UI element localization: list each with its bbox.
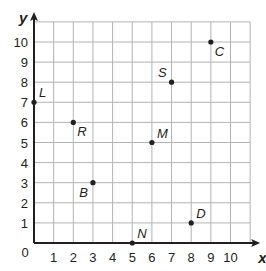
y-tick-label: 8 [21, 75, 28, 90]
point-label: M [157, 126, 168, 141]
x-tick-label: 1 [50, 250, 57, 265]
y-tick-label: 7 [21, 95, 28, 110]
y-tick-label: 5 [21, 136, 28, 151]
point-dot-icon [130, 240, 135, 245]
y-tick-label: 6 [21, 115, 28, 130]
point-dot-icon [90, 180, 95, 185]
y-tick-label: 3 [21, 176, 28, 191]
point-label: N [137, 226, 147, 241]
x-tick-label: 3 [89, 250, 96, 265]
y-tick-label: 9 [21, 55, 28, 70]
y-axis-label: y [18, 9, 28, 26]
point-label: R [77, 124, 86, 139]
x-tick-label: 4 [109, 250, 116, 265]
point-dot-icon [189, 220, 194, 225]
point-dot-icon [31, 100, 36, 105]
y-tick-label: 1 [21, 216, 28, 231]
point-dot-icon [169, 80, 174, 85]
x-tick-label: 5 [129, 250, 136, 265]
point-label: S [158, 65, 167, 80]
x-tick-label: 6 [148, 250, 155, 265]
x-tick-label: 2 [70, 250, 77, 265]
x-tick-label: 8 [188, 250, 195, 265]
y-tick-label: 10 [14, 35, 28, 50]
point-label: B [79, 185, 88, 200]
point-label: D [196, 206, 205, 221]
y-tick-label: 2 [21, 196, 28, 211]
x-axis-label: x [257, 249, 266, 266]
point-dot-icon [71, 120, 76, 125]
point-label: L [39, 85, 46, 100]
point-dot-icon [208, 39, 213, 44]
x-tick-label: 9 [207, 250, 214, 265]
point-dot-icon [149, 140, 154, 145]
y-tick-label: 4 [21, 156, 28, 171]
tick-labels: 01234567891012345678910 [14, 35, 238, 265]
x-tick-label: 7 [168, 250, 175, 265]
x-tick-label: 10 [223, 250, 237, 265]
point-label: C [215, 44, 225, 59]
coordinate-plane: xy 01234567891012345678910 LRBNMSDC [0, 0, 266, 271]
x-tick-label: 0 [21, 245, 28, 260]
